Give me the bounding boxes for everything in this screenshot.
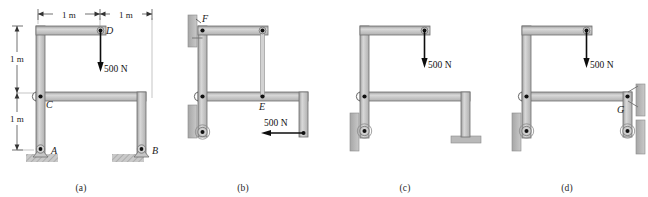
dim-label-left-upper: 1 m bbox=[10, 54, 24, 64]
pin-top-right-b bbox=[259, 27, 266, 34]
point-label-e: E bbox=[258, 101, 265, 112]
dimension-top-left: 1 m bbox=[38, 8, 100, 20]
member-horizontal-top bbox=[36, 26, 106, 35]
panel-c-drawing: 500 N bbox=[324, 0, 486, 197]
panel-caption-d: (d) bbox=[486, 183, 648, 193]
member-horizontal-top-b bbox=[198, 26, 268, 35]
wall-upper-left bbox=[188, 15, 197, 47]
force-label-500n-b: 500 N bbox=[264, 118, 288, 128]
wall-lower-right-d bbox=[636, 120, 645, 154]
panel-b-drawing: F E bbox=[162, 0, 324, 197]
member-column-right-c bbox=[461, 92, 470, 137]
force-label-500n-a: 500 N bbox=[104, 64, 128, 74]
panel-c: 500 N (c) bbox=[324, 0, 486, 197]
point-label-c: C bbox=[46, 99, 53, 110]
dim-label-left-lower: 1 m bbox=[10, 114, 24, 124]
force-arrow-500n-d bbox=[583, 31, 589, 68]
point-label-a: A bbox=[50, 145, 58, 156]
support-pin-b bbox=[134, 145, 149, 157]
member-horizontal-lower-b bbox=[198, 92, 308, 101]
dimension-left-upper: 1 m bbox=[6, 26, 28, 93]
member-horizontal-top-c bbox=[360, 26, 430, 35]
force-arrow-500n-b bbox=[261, 130, 303, 136]
point-label-g: G bbox=[617, 104, 624, 115]
force-arrow-500n-c bbox=[421, 31, 427, 68]
panel-b: F E bbox=[162, 0, 324, 197]
dimension-top-right: 1 m bbox=[100, 8, 152, 20]
wall-right-g bbox=[636, 84, 645, 116]
figure-container: 1 m 1 m 1 m bbox=[0, 0, 648, 197]
member-column-left-c bbox=[360, 26, 369, 138]
pin-e bbox=[260, 94, 264, 98]
member-column-right-b bbox=[299, 92, 308, 137]
panel-caption-b: (b) bbox=[162, 183, 324, 193]
member-column-left-b bbox=[198, 26, 207, 137]
member-link-to-e bbox=[261, 32, 265, 96]
dimension-left-lower: 1 m bbox=[6, 93, 28, 150]
panel-caption-c: (c) bbox=[324, 183, 486, 193]
force-arrow-500n-a bbox=[97, 31, 103, 72]
panel-caption-a: (a) bbox=[0, 183, 162, 193]
member-horizontal-top-d bbox=[522, 26, 592, 35]
panel-a: 1 m 1 m 1 m bbox=[0, 0, 162, 197]
member-horizontal-lower-c bbox=[360, 92, 470, 101]
point-label-d: D bbox=[105, 25, 114, 36]
point-label-f: F bbox=[201, 13, 209, 24]
support-pin-a bbox=[33, 145, 48, 157]
force-label-500n-d: 500 N bbox=[590, 60, 614, 70]
member-column-left-d bbox=[522, 26, 531, 138]
dim-label-top-left: 1 m bbox=[62, 10, 76, 20]
member-horizontal-lower-d bbox=[522, 92, 632, 101]
panel-d: G bbox=[486, 0, 648, 197]
panel-a-drawing: 1 m 1 m 1 m bbox=[0, 0, 162, 197]
force-label-500n-c: 500 N bbox=[428, 60, 452, 70]
point-label-b: B bbox=[152, 145, 158, 156]
dim-label-top-right: 1 m bbox=[119, 10, 133, 20]
member-column-left bbox=[36, 26, 45, 155]
panel-d-drawing: G bbox=[486, 0, 648, 197]
